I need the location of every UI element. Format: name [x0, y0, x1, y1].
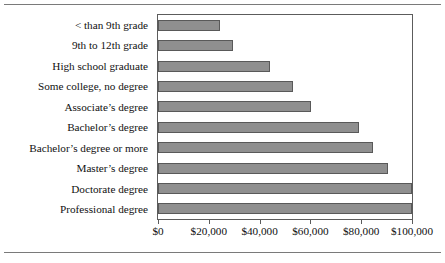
- bottom-divider-rule: [4, 252, 441, 253]
- bar: [158, 183, 412, 194]
- x-axis-tick-labels: $0$20,000$40,000$60,000$80,000$100,000: [0, 226, 445, 242]
- bar-row: [158, 97, 412, 117]
- bar: [158, 81, 293, 92]
- bar-row: [158, 158, 412, 178]
- top-divider-rule: [4, 4, 441, 5]
- bar-row: [158, 137, 412, 157]
- bar-row: [158, 76, 412, 96]
- x-axis-tick-label: $80,000: [343, 226, 379, 237]
- category-label: < than 9th grade: [0, 15, 153, 36]
- x-axis-tick-label: $20,000: [191, 226, 227, 237]
- bar-row: [158, 35, 412, 55]
- category-axis-labels: < than 9th grade 9th to 12th grade High …: [0, 14, 153, 220]
- bar: [158, 203, 412, 214]
- x-axis-tick-label: $40,000: [241, 226, 277, 237]
- x-axis-tick-label: $0: [152, 226, 163, 237]
- bar-row: [158, 117, 412, 137]
- bar-row: [158, 178, 412, 198]
- bar-row: [158, 15, 412, 35]
- bar-row: [158, 56, 412, 76]
- category-label: 9th to 12th grade: [0, 36, 153, 57]
- bar-chart-figure: < than 9th grade 9th to 12th grade High …: [0, 0, 445, 263]
- x-axis-tick-label: $100,000: [391, 226, 433, 237]
- category-label: Professional degree: [0, 200, 153, 221]
- category-label: Some college, no degree: [0, 77, 153, 98]
- bar: [158, 20, 220, 31]
- category-label: Bachelor’s degree: [0, 118, 153, 139]
- bar-row: [158, 199, 412, 219]
- category-label: Doctorate degree: [0, 179, 153, 200]
- x-axis-tick: [412, 220, 413, 224]
- category-label: Bachelor’s degree or more: [0, 138, 153, 159]
- x-axis-tick: [158, 220, 159, 224]
- category-label: Associate’s degree: [0, 97, 153, 118]
- bar: [158, 61, 270, 72]
- x-axis-tick: [209, 220, 210, 224]
- bar: [158, 142, 373, 153]
- x-axis-tick: [260, 220, 261, 224]
- bar: [158, 101, 311, 112]
- bar: [158, 163, 388, 174]
- category-label: Master’s degree: [0, 159, 153, 180]
- x-axis-tick-label: $60,000: [292, 226, 328, 237]
- category-label: High school graduate: [0, 56, 153, 77]
- bars-layer: [158, 15, 412, 219]
- x-axis-tick: [310, 220, 311, 224]
- bar: [158, 40, 233, 51]
- bar: [158, 122, 359, 133]
- x-axis-tick: [361, 220, 362, 224]
